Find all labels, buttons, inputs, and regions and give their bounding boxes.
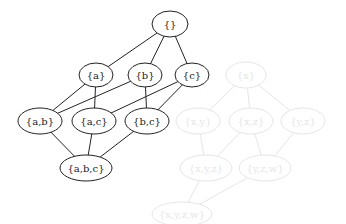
ghost-node-label: {x}	[237, 70, 255, 81]
ghost-node-g3: {y,z}	[281, 108, 325, 134]
ghost-node-g5: {y,z,w}	[239, 155, 291, 181]
ghost-node-label: {x,z}	[238, 116, 265, 127]
node-label: {a,c}	[80, 116, 107, 127]
ghost-node-label: {y,z}	[290, 116, 316, 127]
node-a: {a}	[79, 63, 113, 87]
node-label: {a}	[87, 70, 106, 81]
node-abc: {a,b,c}	[60, 155, 112, 181]
node-bc: {b,c}	[125, 108, 169, 134]
ghost-node-g4: {x,y,z}	[180, 155, 232, 181]
ghost-node-g6: {x,y,z,w}	[152, 202, 212, 224]
nodes: {}{a}{b}{c}{a,b}{a,c}{b,c}{a,b,c}	[18, 11, 209, 181]
ghost-node-g0: {x}	[226, 62, 266, 88]
node-b: {b}	[128, 63, 162, 87]
node-label: {b,c}	[133, 116, 161, 127]
node-ac: {a,c}	[72, 108, 116, 134]
edges	[40, 24, 192, 168]
ghost-node-label: {x,y,z,w}	[159, 209, 205, 220]
ghost-node-label: {x,y,z}	[189, 163, 223, 174]
node-label: {c}	[183, 70, 201, 81]
hasse-diagram: {x}{x,y}{x,z}{y,z}{x,y,z}{y,z,w}{x,y,z,w…	[0, 0, 346, 224]
ghost-node-g2: {x,z}	[229, 108, 273, 134]
node-label: {}	[164, 19, 177, 30]
node-label: {a,b,c}	[67, 163, 104, 174]
node-label: {b}	[135, 70, 154, 81]
node-ab: {a,b}	[18, 108, 62, 134]
ghost-node-label: {y,z,w}	[246, 163, 283, 174]
ghost-node-label: {x,y}	[184, 116, 211, 127]
node-c: {c}	[175, 63, 209, 87]
ghost-node-g1: {x,y}	[176, 108, 220, 134]
node-label: {a,b}	[26, 116, 54, 127]
faded-background-lattice: {x}{x,y}{x,z}{y,z}{x,y,z}{y,z,w}{x,y,z,w…	[152, 62, 325, 224]
node-empty: {}	[152, 11, 188, 37]
